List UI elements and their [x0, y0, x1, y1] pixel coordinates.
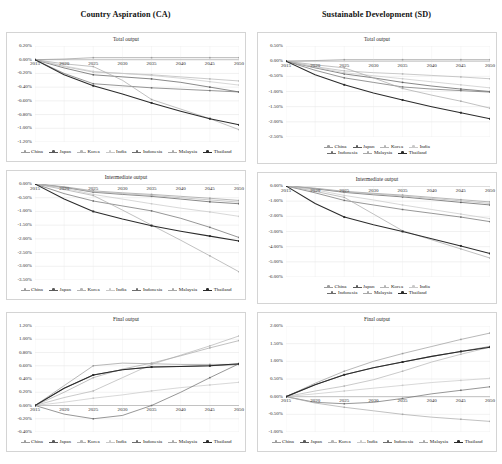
legend-item-china[interactable]: China	[272, 439, 294, 445]
series-marker	[344, 197, 346, 199]
series-marker	[93, 71, 95, 73]
series-marker	[93, 83, 95, 85]
y-axis-tick-label: 0.40%	[7, 376, 32, 381]
legend-marker-icon	[324, 285, 333, 290]
chart-title: Total output	[7, 36, 245, 42]
y-axis-tick-label: -0.50%	[258, 73, 283, 78]
legend-item-korea[interactable]: Korea	[77, 439, 100, 445]
x-axis-tick-label: 2045	[200, 61, 220, 66]
legend-item-indonesia[interactable]: Indonesia	[132, 287, 162, 293]
legend-item-indonesia[interactable]: Indonesia	[327, 150, 357, 156]
y-axis-tick-label: 2.00%	[258, 323, 283, 328]
series-marker	[402, 385, 404, 387]
legend-label: Japan	[60, 149, 71, 155]
chart-title: Intermediate output	[7, 174, 245, 180]
legend-item-malaysia[interactable]: Malaysia	[363, 290, 392, 296]
legend-item-indonesia[interactable]: Indonesia	[383, 439, 413, 445]
legend-item-thailand[interactable]: Thailand	[398, 150, 426, 156]
series-marker	[209, 377, 211, 379]
legend-label: Indonesia	[338, 290, 357, 296]
series-marker	[209, 365, 211, 367]
legend-label: China	[31, 439, 43, 445]
legend-item-korea[interactable]: Korea	[77, 287, 100, 293]
y-axis-tick-label: -0.20%	[7, 70, 32, 75]
series-marker	[238, 363, 239, 365]
series-line-india	[286, 378, 490, 396]
series-marker	[344, 390, 346, 392]
legend-item-thailand[interactable]: Thailand	[203, 287, 231, 293]
legend-item-korea[interactable]: Korea	[328, 439, 351, 445]
chart-panel-sd-final: Final output2.00%1.50%1.00%0.50%0.00%-0.…	[257, 312, 497, 452]
legend-item-japan[interactable]: Japan	[49, 439, 71, 445]
legend-label: Thailand	[214, 287, 232, 293]
legend-item-malaysia[interactable]: Malaysia	[168, 439, 197, 445]
series-marker	[402, 370, 404, 372]
legend-marker-icon	[106, 440, 115, 445]
legend-row: IndonesiaMalaysiaThailand	[258, 150, 496, 156]
y-axis-tick-label: 1.50%	[258, 341, 283, 346]
series-marker	[489, 204, 490, 206]
legend-item-japan[interactable]: Japan	[300, 439, 322, 445]
series-marker	[238, 124, 239, 126]
legend-marker-icon	[398, 291, 407, 296]
legend-item-thailand[interactable]: Thailand	[398, 290, 426, 296]
legend-item-japan[interactable]: Japan	[49, 149, 71, 155]
legend-item-thailand[interactable]: Thailand	[203, 149, 231, 155]
y-axis-tick-label: 1.00%	[7, 336, 32, 341]
plot-area	[286, 46, 490, 137]
legend-marker-icon	[203, 150, 212, 155]
legend-item-thailand[interactable]: Thailand	[454, 439, 482, 445]
series-marker	[151, 57, 153, 59]
legend-label: Japan	[60, 287, 71, 293]
series-marker	[92, 374, 94, 376]
legend-label: Malaysia	[179, 287, 197, 293]
legend-item-india[interactable]: India	[106, 287, 127, 293]
series-line-indonesia	[35, 184, 239, 237]
legend-item-malaysia[interactable]: Malaysia	[168, 149, 197, 155]
legend-item-malaysia[interactable]: Malaysia	[168, 287, 197, 293]
series-marker	[238, 240, 239, 242]
legend-label: India	[116, 287, 126, 293]
legend-item-indonesia[interactable]: Indonesia	[132, 439, 162, 445]
legend-item-indonesia[interactable]: Indonesia	[327, 290, 357, 296]
legend-item-india[interactable]: India	[106, 439, 127, 445]
y-axis-tick-label: -6.00%	[258, 274, 283, 279]
legend-item-india[interactable]: India	[357, 439, 378, 445]
x-axis-tick-label: 2020	[305, 188, 325, 193]
legend-item-malaysia[interactable]: Malaysia	[363, 150, 392, 156]
legend-item-china[interactable]: China	[21, 287, 43, 293]
legend-marker-icon	[409, 285, 418, 290]
series-line-thailand	[286, 61, 490, 119]
series-marker	[402, 361, 404, 363]
series-marker	[151, 210, 153, 212]
x-axis-tick-label: 2015	[276, 63, 296, 68]
legend-label: Indonesia	[338, 150, 357, 156]
legend-item-korea[interactable]: Korea	[77, 149, 100, 155]
series-marker	[489, 201, 490, 203]
legend-label: Malaysia	[430, 439, 448, 445]
legend-item-india[interactable]: India	[106, 149, 127, 155]
legend-marker-icon	[132, 288, 141, 293]
chart-legend: ChinaJapanKoreaIndiaIndonesiaMalaysiaTha…	[258, 439, 496, 445]
series-marker	[151, 87, 153, 89]
legend-marker-icon	[203, 440, 212, 445]
legend-marker-icon	[21, 150, 30, 155]
x-axis-tick-label: 2050	[480, 398, 500, 403]
series-marker	[238, 203, 239, 205]
legend-item-indonesia[interactable]: Indonesia	[132, 149, 162, 155]
legend-item-china[interactable]: China	[21, 439, 43, 445]
series-marker	[209, 78, 211, 80]
x-axis-tick-label: 2015	[276, 188, 296, 193]
legend-item-thailand[interactable]: Thailand	[203, 439, 231, 445]
x-axis-tick-label: 2015	[25, 61, 45, 66]
series-marker	[209, 384, 211, 386]
series-marker	[402, 209, 404, 211]
series-marker	[402, 88, 404, 90]
x-axis-tick-label: 2015	[25, 186, 45, 191]
legend-label: Indonesia	[143, 439, 162, 445]
legend-label: Thailand	[214, 149, 232, 155]
legend-item-japan[interactable]: Japan	[49, 287, 71, 293]
legend-item-china[interactable]: China	[21, 149, 43, 155]
legend-item-malaysia[interactable]: Malaysia	[419, 439, 448, 445]
chart-legend: ChinaJapanKoreaIndiaIndonesiaMalaysiaTha…	[258, 284, 496, 296]
